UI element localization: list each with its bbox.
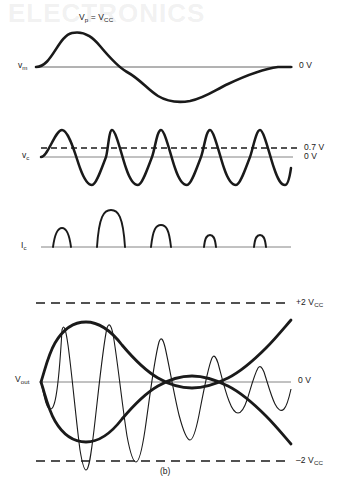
peak-voltage-label: Vp = VCC (79, 13, 113, 22)
zero-volt-label-3: 0 V (298, 376, 311, 385)
figure-caption: (b) (160, 466, 170, 476)
modulating-signal-y-label: vm (18, 61, 28, 70)
modulated-carrier-trace (41, 325, 291, 470)
output-signal-y-label: Vout (15, 375, 30, 384)
carrier-sine-wave (41, 130, 291, 185)
collector-current-pulse-3 (151, 225, 171, 247)
modulating-signal-group (36, 32, 293, 101)
carrier-signal-group (41, 130, 298, 185)
zero-volt-label-1: 0 V (299, 61, 312, 70)
figure-container: ELECTRONICS (0, 0, 348, 494)
collector-current-y-label: Ic (21, 241, 27, 250)
collector-current-pulse-4 (204, 235, 216, 247)
output-signal-group (36, 303, 291, 470)
minus-two-vcc-label: –2 VCC (296, 456, 323, 465)
collector-current-group (41, 210, 291, 247)
carrier-signal-y-label: vc (22, 151, 30, 160)
zero-volt-label-2: 0 V (304, 152, 317, 161)
collector-current-pulse-5 (254, 235, 266, 247)
collector-current-pulse-1 (53, 228, 71, 247)
waveform-diagram-svg (0, 0, 348, 494)
collector-current-pulse-2 (97, 210, 125, 247)
plus-two-vcc-label: +2 VCC (296, 298, 323, 307)
